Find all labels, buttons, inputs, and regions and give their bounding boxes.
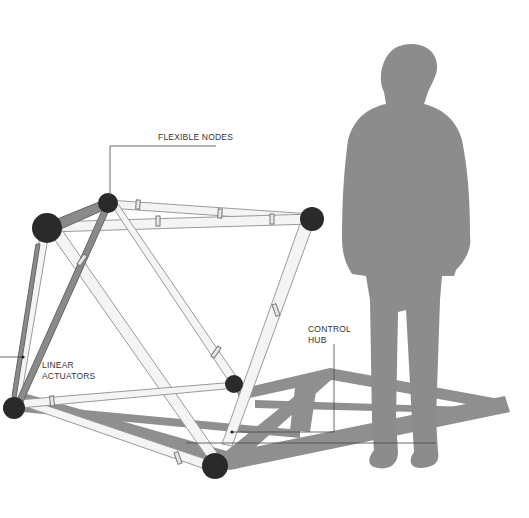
node-top-right xyxy=(300,207,324,231)
strut-back-diagonal xyxy=(112,204,240,386)
node-top-back xyxy=(98,193,118,213)
node-top-left xyxy=(32,213,62,243)
label-control-hub: CONTROL HUB xyxy=(308,324,351,346)
label-linear-actuators: LINEAR ACTUATORS xyxy=(42,360,95,382)
label-control-hub-line2: HUB xyxy=(308,335,351,346)
label-linear-actuators-line1: LINEAR xyxy=(42,360,95,371)
flexible-nodes-leader xyxy=(110,146,216,196)
label-flexible-nodes: FLEXIBLE NODES xyxy=(158,132,233,143)
actuator-left-outer xyxy=(12,244,40,398)
label-linear-actuators-line2: ACTUATORS xyxy=(42,371,95,382)
node-bottom-left xyxy=(3,397,25,419)
label-control-hub-line1: CONTROL xyxy=(308,324,351,335)
node-bottom-front xyxy=(202,453,228,479)
diagram-canvas xyxy=(0,0,529,518)
node-control-hub xyxy=(225,375,243,393)
